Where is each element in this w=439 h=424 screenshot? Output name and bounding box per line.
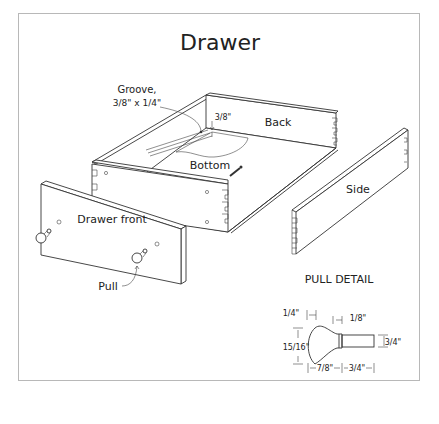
drawer-front-label: Drawer front (77, 213, 147, 226)
pull-detail-drawing (293, 310, 388, 373)
dim-knob-length: 7/8" (317, 364, 334, 373)
dim-knob-edge: 1/4" (283, 309, 300, 318)
drawer-diagram: Drawer Groove, 3/8" x 1/4" (0, 0, 439, 424)
pull-detail-heading: PULL DETAIL (305, 273, 374, 286)
pull-knob-left (36, 233, 46, 243)
dim-knob-diameter: 15/16" (283, 343, 310, 352)
diagram-title: Drawer (180, 30, 261, 55)
bottom-label: Bottom (190, 159, 230, 172)
groove-depth-label: 3/8" (215, 113, 232, 122)
pull-label: Pull (98, 280, 118, 293)
dim-tenon-length: 3/4" (349, 364, 366, 373)
groove-label: Groove, (117, 84, 156, 95)
side-label: Side (346, 183, 370, 196)
pull-knob-right (132, 253, 142, 263)
groove-size-label: 3/8" x 1/4" (113, 98, 161, 108)
back-label: Back (265, 116, 292, 129)
dim-collar: 1/8" (350, 314, 367, 323)
dim-tenon-diameter: 3/4" (385, 338, 402, 347)
